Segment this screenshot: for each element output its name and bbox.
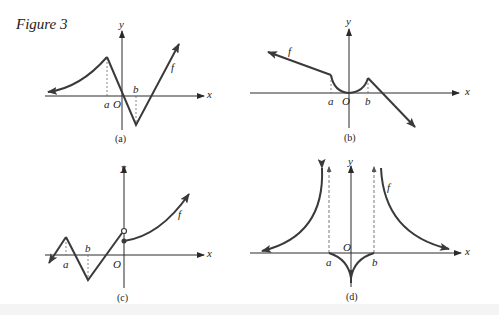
function-curve-zigzag (66, 233, 122, 280)
origin-label: O (113, 99, 121, 110)
origin-label: O (343, 242, 351, 253)
function-label: f (171, 62, 174, 73)
panel-a (45, 31, 204, 130)
function-label: f (288, 46, 291, 57)
function-label: f (387, 182, 390, 193)
panel-caption: (c) (117, 293, 128, 303)
function-curve-left (268, 52, 331, 75)
function-label: f (178, 209, 181, 220)
panel-b (250, 29, 459, 128)
point-b-label: b (85, 243, 91, 254)
origin-label: O (342, 96, 350, 107)
x-axis-label: x (207, 248, 212, 259)
point-a-label: a (104, 99, 110, 110)
function-curve-right (368, 78, 415, 127)
y-axis-label: y (121, 162, 126, 173)
y-axis-label: y (119, 19, 124, 30)
function-curve (48, 57, 107, 92)
panel-caption: (b) (344, 133, 356, 143)
figure-graphics (0, 0, 499, 315)
x-axis-label: x (465, 246, 470, 257)
function-curve-lines (107, 44, 179, 125)
y-axis-label: y (346, 16, 351, 27)
x-axis-label: x (465, 86, 470, 97)
open-circle (122, 229, 127, 234)
x-axis-label: x (207, 89, 212, 100)
point-a-label: a (328, 96, 334, 107)
point-a-label: a (326, 257, 332, 268)
panel-caption: (d) (346, 292, 358, 302)
panel-d (250, 166, 461, 287)
function-curve-right (381, 168, 449, 249)
y-axis-label: y (348, 156, 353, 167)
function-curve-left (262, 168, 322, 251)
panel-caption: (a) (115, 134, 126, 144)
point-b-label: b (365, 96, 371, 107)
origin-label: O (113, 259, 121, 270)
point-a-label: a (63, 259, 69, 270)
point-b-label: b (372, 257, 378, 268)
point-b-label: b (133, 84, 139, 95)
